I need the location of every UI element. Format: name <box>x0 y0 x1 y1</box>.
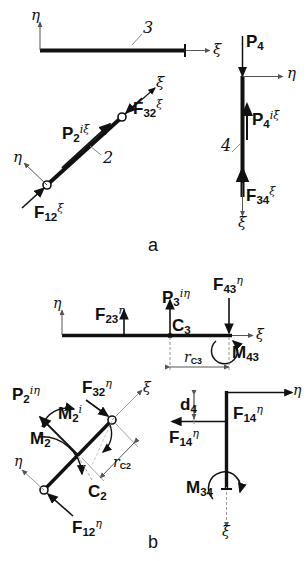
panel-a-link2-xi-axis-label: ξ <box>156 75 164 90</box>
panel-a-link4-number: 4 <box>221 138 231 154</box>
panel-b-link2-center-of-mass: C2 <box>88 483 107 503</box>
panel-b-dimension-rC2: rC2 <box>113 455 131 471</box>
panel-b-force-F32-eta: F32η <box>82 378 112 399</box>
panel-b-link4-eta-axis-label: η <box>293 383 301 397</box>
panel-b-force-F23-eta: F23η <box>95 305 125 326</box>
panel-a-force-P2i-xi: P2iξ <box>62 124 90 145</box>
panel-b-moment-M2i: M2i <box>58 404 82 425</box>
panel-b-dimension-d4: d4 <box>180 396 197 416</box>
panel-a-link3-eta-axis-label: η <box>31 8 40 23</box>
subfigure-caption-b: b <box>148 533 158 551</box>
panel-b-force-F43-eta: F43η <box>213 275 243 296</box>
panel-b-link3 <box>62 298 253 372</box>
panel-a-force-F12-xi: F12ξ <box>34 203 63 224</box>
panel-b-moment-M34: M34 <box>186 479 213 499</box>
panel-b-force-P2i-eta: P2iη <box>12 385 40 406</box>
panel-b-link2-eta-axis-label: η <box>14 454 22 468</box>
panel-a-link2-number: 2 <box>103 150 113 166</box>
panel-a-link4-eta-axis-label: η <box>287 66 296 81</box>
panel-b-dimension-rC3: rC3 <box>184 350 202 366</box>
panel-b-moment-M2: M2 <box>30 430 51 450</box>
panel-a-force-P4i-xi: P4iξ <box>252 110 280 131</box>
panel-b-force-F14-eta-right: F14η <box>233 404 263 425</box>
panel-b-link3-center-of-mass: C3 <box>172 317 191 337</box>
panel-a-force-F32-xi: F32ξ <box>133 99 162 120</box>
panel-b-force-P3i-eta: P3iη <box>162 288 190 309</box>
diagram-vector-layer <box>0 0 308 561</box>
panel-a-force-P4: P4 <box>246 33 264 53</box>
panel-a-link3-number: 3 <box>143 20 153 36</box>
figure-canvas: η ξ 3 ξ η 2 P2iξ F32ξ F12ξ P4 η P4iξ 4 F… <box>0 0 308 561</box>
panel-b-moment-M43: M43 <box>232 344 259 364</box>
panel-b-link3-eta-axis-label: η <box>53 296 61 310</box>
panel-a-link3 <box>40 22 210 57</box>
panel-a-force-F34-xi: F34ξ <box>246 186 275 207</box>
panel-a-link2-eta-axis-label: η <box>13 150 22 165</box>
panel-b-link2-xi-axis-label: ξ <box>143 380 151 394</box>
panel-a-link3-xi-axis-label: ξ <box>213 42 221 57</box>
panel-b-force-F12-eta: F12η <box>72 518 102 539</box>
subfigure-caption-a: a <box>148 236 158 254</box>
panel-b-force-F14-eta-left: F14η <box>169 428 199 449</box>
panel-a-link4-xi-bottom-label: ξ <box>238 215 246 230</box>
panel-b-link4-xi-axis-label: ξ <box>222 524 230 538</box>
panel-b-link3-xi-axis-label: ξ <box>256 327 264 341</box>
